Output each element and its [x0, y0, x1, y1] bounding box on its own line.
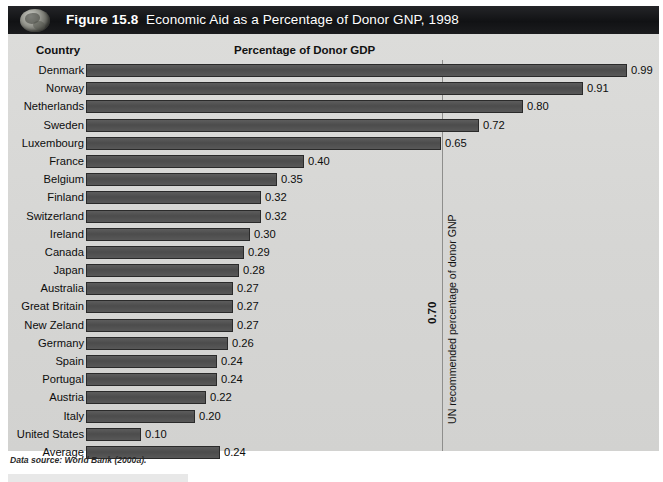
value-bar	[86, 119, 479, 132]
value-label: 0.30	[254, 228, 276, 240]
source-note: Data source: World Bank (2000a).	[10, 455, 146, 465]
value-bar	[86, 228, 250, 241]
country-label: Norway	[0, 82, 84, 94]
value-label: 0.24	[221, 373, 243, 385]
value-bar	[86, 319, 233, 332]
figure-title: Figure 15.8 Economic Aid as a Percentage…	[66, 12, 459, 27]
bar-rows: Denmark0.99Norway0.91Netherlands0.80Swed…	[8, 63, 659, 463]
chart-row: Luxembourg0.65	[8, 136, 659, 154]
column-header-percentage: Percentage of Donor GDP	[234, 44, 375, 56]
chart-row: Finland0.32	[8, 190, 659, 208]
value-bar	[86, 246, 244, 259]
chart-row: Germany0.26	[8, 336, 659, 354]
value-label: 0.24	[224, 446, 246, 458]
value-bar	[86, 428, 141, 441]
chart-row: Denmark0.99	[8, 63, 659, 81]
chart-panel: Country Percentage of Donor GDP 0.70 UN …	[8, 34, 659, 451]
value-label: 0.22	[210, 391, 232, 403]
chart-row: Norway0.91	[8, 81, 659, 99]
figure-container: Figure 15.8 Economic Aid as a Percentage…	[0, 0, 663, 482]
country-label: Netherlands	[0, 100, 84, 112]
value-label: 0.32	[265, 210, 287, 222]
country-label: Germany	[0, 337, 84, 349]
chart-row: Australia0.27	[8, 281, 659, 299]
value-label: 0.27	[237, 282, 259, 294]
value-label: 0.27	[237, 300, 259, 312]
chart-row: Netherlands0.80	[8, 99, 659, 117]
value-bar	[86, 391, 206, 404]
country-label: Austria	[0, 391, 84, 403]
country-label: New Zeland	[0, 319, 84, 331]
country-label: Denmark	[0, 64, 84, 76]
country-label: Portugal	[0, 373, 84, 385]
chart-row: Ireland0.30	[8, 227, 659, 245]
figure-title-text: Economic Aid as a Percentage of Donor GN…	[146, 12, 459, 27]
value-bar	[86, 155, 304, 168]
value-label: 0.26	[232, 337, 254, 349]
globe-icon	[20, 9, 50, 32]
value-bar	[86, 137, 441, 150]
value-label: 0.72	[483, 119, 505, 131]
value-label: 0.27	[237, 319, 259, 331]
value-bar	[86, 64, 627, 77]
value-label: 0.40	[308, 155, 330, 167]
value-bar	[86, 300, 233, 313]
value-bar	[86, 173, 277, 186]
chart-row: Portugal0.24	[8, 372, 659, 390]
value-bar	[86, 191, 261, 204]
country-label: Switzerland	[0, 210, 84, 222]
value-label: 0.10	[145, 428, 167, 440]
value-bar	[86, 373, 217, 386]
value-label: 0.65	[445, 137, 467, 149]
figure-title-band: Figure 15.8 Economic Aid as a Percentage…	[8, 6, 659, 34]
country-label: Ireland	[0, 228, 84, 240]
chart-row: Great Britain0.27	[8, 299, 659, 317]
value-bar	[86, 355, 217, 368]
chart-row: New Zeland0.27	[8, 318, 659, 336]
chart-row: Italy0.20	[8, 409, 659, 427]
chart-row: Austria0.22	[8, 390, 659, 408]
value-bar	[86, 410, 195, 423]
value-bar	[86, 100, 523, 113]
value-label: 0.24	[221, 355, 243, 367]
value-bar	[86, 264, 239, 277]
value-label: 0.80	[527, 100, 549, 112]
chart-row: Sweden0.72	[8, 118, 659, 136]
value-label: 0.35	[281, 173, 303, 185]
value-label: 0.99	[631, 64, 653, 76]
chart-row: Japan0.28	[8, 263, 659, 281]
country-label: Australia	[0, 282, 84, 294]
figure-number: Figure 15.8	[66, 12, 138, 27]
value-bar	[86, 210, 261, 223]
chart-row: France0.40	[8, 154, 659, 172]
column-header-country: Country	[36, 44, 80, 56]
value-label: 0.20	[199, 410, 221, 422]
chart-row: Canada0.29	[8, 245, 659, 263]
country-label: Luxembourg	[0, 137, 84, 149]
country-label: Italy	[0, 410, 84, 422]
chart-row: United States0.10	[8, 427, 659, 445]
country-label: Great Britain	[0, 300, 84, 312]
country-label: Finland	[0, 191, 84, 203]
value-bar	[86, 337, 228, 350]
country-label: Japan	[0, 264, 84, 276]
country-label: Belgium	[0, 173, 84, 185]
country-label: France	[0, 155, 84, 167]
value-label: 0.32	[265, 191, 287, 203]
country-label: Canada	[0, 246, 84, 258]
value-bar	[86, 282, 233, 295]
country-label: United States	[0, 428, 84, 440]
page-edge-sliver	[8, 474, 188, 482]
value-label: 0.91	[587, 82, 609, 94]
value-label: 0.28	[243, 264, 265, 276]
country-label: Sweden	[0, 119, 84, 131]
value-bar	[86, 82, 583, 95]
country-label: Spain	[0, 355, 84, 367]
chart-row: Belgium0.35	[8, 172, 659, 190]
value-label: 0.29	[248, 246, 270, 258]
chart-row: Switzerland0.32	[8, 209, 659, 227]
chart-row: Spain0.24	[8, 354, 659, 372]
